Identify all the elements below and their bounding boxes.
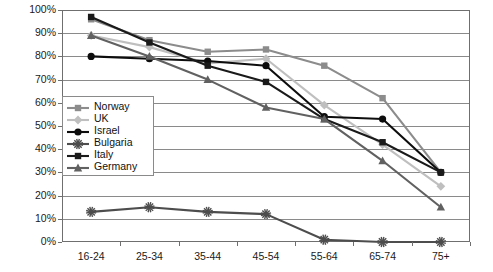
x-axis-tick-label: 75+: [432, 250, 450, 262]
legend-item-germany[interactable]: Germany: [66, 160, 149, 172]
x-axis-tick-label: 65-74: [369, 250, 396, 262]
legend-item-label: Israel: [90, 124, 120, 136]
y-axis-tick-mark: [58, 56, 62, 57]
y-axis-tick-mark: [58, 219, 62, 220]
data-point-square-marker: [75, 105, 81, 111]
legend-item-label: Germany: [90, 160, 137, 172]
data-point-circle-marker: [74, 128, 81, 135]
legend-item-italy[interactable]: Italy: [66, 148, 149, 160]
x-axis-tick-mark: [120, 242, 121, 246]
y-axis: 100%90%80%70%60%50%40%30%20%10%0%: [0, 0, 56, 272]
legend-square-icon: [66, 148, 90, 160]
legend-item-uk[interactable]: UK: [66, 112, 149, 124]
x-axis-tick-mark: [353, 242, 354, 246]
x-axis-tick-mark: [470, 242, 471, 246]
gridline: [63, 80, 469, 81]
y-axis-tick-mark: [58, 10, 62, 11]
legend-circle-icon: [66, 124, 90, 136]
x-axis-tick-label: 25-34: [136, 250, 163, 262]
legend-item-bulgaria[interactable]: Bulgaria: [66, 136, 149, 148]
y-axis-tick-label: 20%: [35, 190, 56, 201]
chart-legend: NorwayUKIsraelBulgariaItalyGermany: [62, 96, 154, 176]
legend-item-norway[interactable]: Norway: [66, 100, 149, 112]
y-axis-tick-mark: [58, 103, 62, 104]
x-axis-tick-label: 16-24: [78, 250, 105, 262]
y-axis-tick-label: 70%: [35, 74, 56, 85]
y-axis-tick-label: 40%: [35, 143, 56, 154]
x-axis-tick-mark: [237, 242, 238, 246]
legend-square-icon: [66, 100, 90, 112]
y-axis-tick-label: 90%: [35, 27, 56, 38]
legend-star-icon: [66, 136, 90, 148]
y-axis-tick-mark: [58, 126, 62, 127]
x-axis-tick-mark: [179, 242, 180, 246]
y-axis-tick-label: 50%: [35, 120, 56, 131]
line-chart: 100%90%80%70%60%50%40%30%20%10%0% Norway…: [0, 0, 493, 272]
gridline: [63, 219, 469, 220]
y-axis-tick-mark: [58, 33, 62, 34]
y-axis-tick-label: 30%: [35, 166, 56, 177]
legend-item-label: Bulgaria: [90, 136, 133, 148]
y-axis-tick-label: 100%: [29, 4, 56, 15]
y-axis-tick-label: 80%: [35, 50, 56, 61]
x-axis-tick-mark: [295, 242, 296, 246]
y-axis-tick-mark: [58, 149, 62, 150]
legend-item-label: Norway: [90, 100, 130, 112]
y-axis-tick-label: 10%: [35, 213, 56, 224]
y-axis-tick-mark: [58, 172, 62, 173]
y-axis-tick-mark: [58, 242, 62, 243]
gridline: [63, 56, 469, 57]
gridline: [63, 33, 469, 34]
legend-triangle-icon: [66, 160, 90, 172]
x-axis-tick-label: 55-64: [311, 250, 338, 262]
y-axis-tick-mark: [58, 80, 62, 81]
x-axis-tick-label: 35-44: [194, 250, 221, 262]
x-axis-tick-label: 45-54: [253, 250, 280, 262]
y-axis-tick-label: 0%: [41, 236, 56, 247]
legend-item-label: UK: [90, 112, 109, 124]
y-axis-tick-label: 60%: [35, 97, 56, 108]
x-axis-tick-mark: [412, 242, 413, 246]
gridline: [63, 196, 469, 197]
data-point-square-marker: [75, 153, 81, 159]
legend-item-label: Italy: [90, 148, 113, 160]
legend-item-israel[interactable]: Israel: [66, 124, 149, 136]
y-axis-tick-mark: [58, 196, 62, 197]
legend-diamond-icon: [66, 112, 90, 124]
